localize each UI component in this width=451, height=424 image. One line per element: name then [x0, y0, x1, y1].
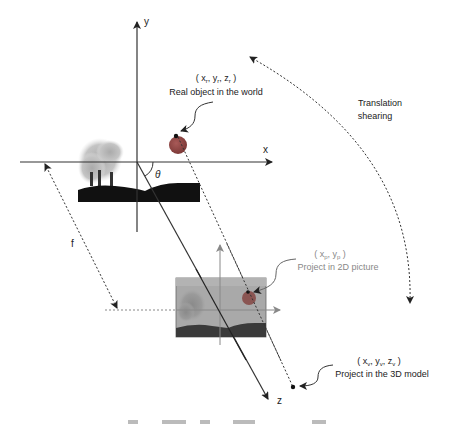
projected-picture: [176, 278, 266, 337]
transform-label-line2: shearing: [358, 111, 393, 121]
transform-label-line1: Translation: [358, 98, 402, 108]
clipped-caption: [128, 420, 326, 424]
chimney: [110, 172, 113, 186]
theta-arc: [145, 162, 153, 176]
model-pointer: [300, 365, 333, 386]
real-object-sphere: [169, 136, 187, 154]
picture-caption: Project in 2D picture: [297, 262, 378, 272]
model-projection-point: [291, 385, 295, 389]
real-object-pointer: [181, 102, 213, 131]
real-object-caption: Real object in the world: [169, 87, 263, 97]
y-axis-label: y: [144, 16, 149, 27]
picture-coords: ( xp, yp ): [314, 249, 346, 260]
theta-label: θ: [155, 169, 161, 180]
projection-diagram: y x z θ ( xr, yr, zr ) Real object in th…: [0, 0, 451, 424]
model-caption: Project in the 3D model: [335, 369, 429, 379]
real-object: [169, 134, 187, 154]
x-axis-label: x: [263, 144, 268, 155]
z-axis-label: z: [277, 395, 282, 406]
model-coords: ( xv, yv, zv ): [357, 356, 401, 367]
real-object-point: [174, 134, 178, 138]
chimney: [98, 170, 101, 186]
chimney: [90, 172, 93, 186]
real-object-coords: ( xr, yr, zr ): [196, 73, 237, 84]
ground-band: [78, 183, 200, 202]
focal-length-label: f: [71, 238, 74, 249]
